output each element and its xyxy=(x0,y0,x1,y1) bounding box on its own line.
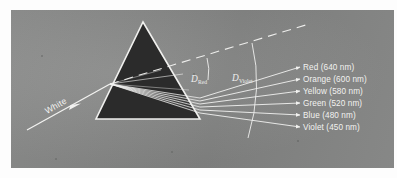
angle-violet-symbol: D xyxy=(231,73,239,83)
angle-arc-red-curve xyxy=(207,58,209,80)
angle-arc-violet: D Violet xyxy=(231,43,257,138)
photo-area: White xyxy=(11,10,394,168)
white-ray-label: White xyxy=(43,96,68,116)
spectrum-label-red: Red (640 nm) xyxy=(303,63,354,72)
dispersion-diagram: White xyxy=(11,10,394,168)
angle-arc-red: D Red xyxy=(190,58,209,85)
spectrum-label-violet: Violet (450 nm) xyxy=(303,123,360,132)
angle-red-symbol: D xyxy=(190,74,198,84)
incident-white-ray: White xyxy=(27,84,110,130)
incident-ray-line xyxy=(27,84,110,130)
emergent-ray-green xyxy=(200,103,300,107)
spectrum-label-group: Red (640 nm) Orange (600 nm) Yellow (580… xyxy=(303,63,367,132)
spectrum-label-yellow: Yellow (580 nm) xyxy=(303,87,363,96)
spectrum-label-blue: Blue (480 nm) xyxy=(303,111,356,120)
incident-ray-arrowhead xyxy=(69,104,81,111)
spectrum-label-orange: Orange (600 nm) xyxy=(303,75,367,84)
emergent-rays xyxy=(200,67,300,127)
prism-dispersion-figure: White xyxy=(0,0,397,178)
angle-violet-subscript: Violet xyxy=(239,78,253,84)
emergent-ray-blue xyxy=(200,110,300,115)
angle-red-subscript: Red xyxy=(198,79,207,85)
emergent-ray-violet xyxy=(200,113,300,127)
spectrum-label-green: Green (520 nm) xyxy=(303,99,362,108)
